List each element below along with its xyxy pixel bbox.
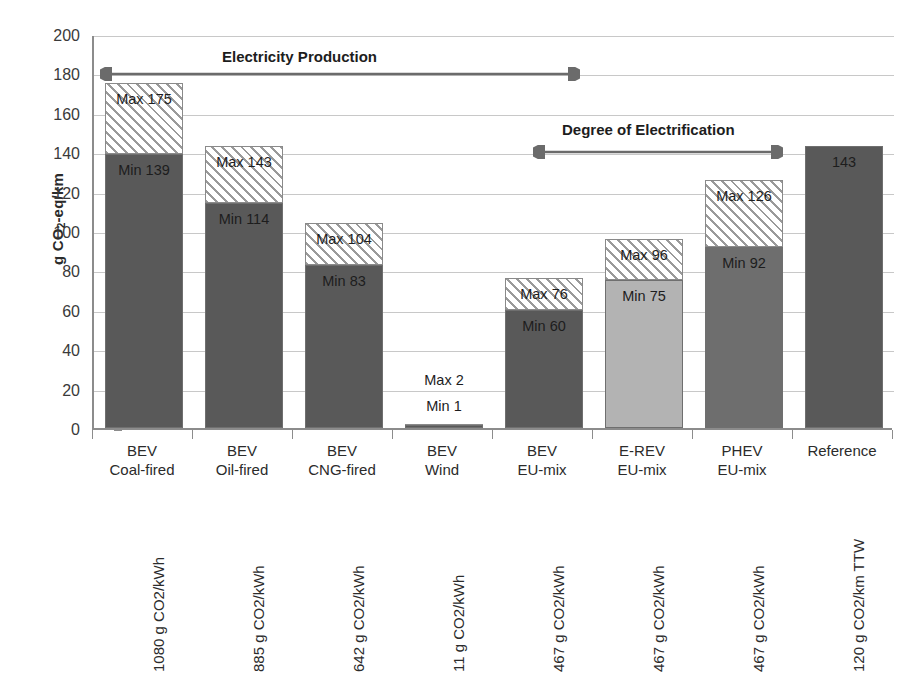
y-tick-label: 180 xyxy=(34,66,80,84)
category-label-bev-wind: BEVWind xyxy=(388,441,496,479)
category-label-e-rev-eu-mix: E-REVEU-mix xyxy=(588,441,696,479)
bar-min-label-bev-coal-fired: Min 139 xyxy=(105,162,183,178)
sub-label-bev-wind: 11 g CO2/kWh xyxy=(450,482,467,672)
bar-reference[interactable]: 143 xyxy=(805,34,883,428)
x-tick-mark xyxy=(692,430,693,439)
bar-min-label-bev-wind: Min 1 xyxy=(389,398,499,414)
sub-label-phev-eu-mix: 467 g CO2/kWh xyxy=(750,482,767,672)
category-label-line2: EU-mix xyxy=(688,460,796,479)
annotation-degree-of-electrification-arrow xyxy=(533,145,783,159)
x-tick-mark xyxy=(592,430,593,439)
bar-max-label-e-rev-eu-mix: Max 96 xyxy=(605,247,683,263)
category-label-line2: CNG-fired xyxy=(288,460,396,479)
category-label-line2: Wind xyxy=(388,460,496,479)
annotation-electricity-production-arrow xyxy=(100,67,580,81)
y-tick-label: 40 xyxy=(34,342,80,360)
bar-min-label-e-rev-eu-mix: Min 75 xyxy=(605,288,683,304)
bar-min-label-bev-cng-fired: Min 83 xyxy=(305,273,383,289)
bar-value-label-reference: 143 xyxy=(805,154,883,170)
bar-segment-min-bev-coal-fired[interactable] xyxy=(105,154,183,428)
category-label-line2: Coal-fired xyxy=(88,460,196,479)
x-tick-mark xyxy=(792,430,793,439)
sub-label-e-rev-eu-mix: 467 g CO2/kWh xyxy=(650,482,667,672)
bar-min-label-bev-oil-fired: Min 114 xyxy=(205,211,283,227)
bar-segment-min-reference[interactable] xyxy=(805,146,883,428)
x-tick-mark xyxy=(92,430,93,439)
x-tick-mark xyxy=(392,430,393,439)
bar-min-label-phev-eu-mix: Min 92 xyxy=(705,255,783,271)
y-tick-label: 200 xyxy=(34,27,80,45)
category-label-line1: BEV xyxy=(488,441,596,460)
sub-label-bev-eu-mix: 467 g CO2/kWh xyxy=(550,482,567,672)
category-label-line1: BEV xyxy=(188,441,296,460)
category-label-line1: BEV xyxy=(288,441,396,460)
bar-segment-min-bev-wind[interactable] xyxy=(405,425,483,428)
category-label-bev-cng-fired: BEVCNG-fired xyxy=(288,441,396,479)
y-tick-label: 60 xyxy=(34,303,80,321)
plot-area: Max 175Min 139Max 143Min 114Max 104Min 8… xyxy=(92,36,892,430)
bar-bev-wind[interactable]: Max 2Min 1 xyxy=(405,34,483,428)
category-label-line1: BEV xyxy=(88,441,196,460)
bar-max-label-bev-coal-fired: Max 175 xyxy=(105,91,183,107)
sub-label-bev-cng-fired: 642 g CO2/kWh xyxy=(350,482,367,672)
bar-e-rev-eu-mix[interactable]: Max 96Min 75 xyxy=(605,34,683,428)
x-tick-mark xyxy=(292,430,293,439)
sub-label-reference: 120 g CO2/km TTW xyxy=(850,482,867,672)
category-label-bev-eu-mix: BEVEU-mix xyxy=(488,441,596,479)
bar-min-label-bev-eu-mix: Min 60 xyxy=(505,318,583,334)
y-axis-ticks: 200180160140120100806040200 xyxy=(30,36,80,430)
bar-phev-eu-mix[interactable]: Max 126Min 92 xyxy=(705,34,783,428)
bar-bev-eu-mix[interactable]: Max 76Min 60 xyxy=(505,34,583,428)
y-tick-label: 160 xyxy=(34,106,80,124)
category-label-line1: PHEV xyxy=(688,441,796,460)
y-tick-label: 140 xyxy=(34,145,80,163)
sub-label-bev-oil-fired: 885 g CO2/kWh xyxy=(250,482,267,672)
y-tick-label: 120 xyxy=(34,185,80,203)
category-label-bev-coal-fired: BEVCoal-fired xyxy=(88,441,196,479)
annotation-degree-of-electrification-label: Degree of Electrification xyxy=(562,121,735,138)
category-label-line1: Reference xyxy=(788,441,896,460)
category-label-bev-oil-fired: BEVOil-fired xyxy=(188,441,296,479)
x-tick-mark xyxy=(192,430,193,439)
x-tick-mark xyxy=(892,430,893,439)
bar-max-label-bev-eu-mix: Max 76 xyxy=(505,286,583,302)
x-tick-mark xyxy=(492,430,493,439)
category-label-line1: BEV xyxy=(388,441,496,460)
bar-segment-min-phev-eu-mix[interactable] xyxy=(705,247,783,428)
y-tick-label: 80 xyxy=(34,263,80,281)
bar-segment-min-bev-cng-fired[interactable] xyxy=(305,265,383,429)
sub-label-bev-coal-fired: 1080 g CO2/kWh xyxy=(150,482,167,672)
bar-bev-oil-fired[interactable]: Max 143Min 114 xyxy=(205,34,283,428)
bar-bev-cng-fired[interactable]: Max 104Min 83 xyxy=(305,34,383,428)
y-tick-label: 20 xyxy=(34,382,80,400)
category-label-line1: E-REV xyxy=(588,441,696,460)
bar-bev-coal-fired[interactable]: Max 175Min 139 xyxy=(105,34,183,428)
bar-segment-min-bev-oil-fired[interactable] xyxy=(205,203,283,428)
annotation-electricity-production-label: Electricity Production xyxy=(222,48,377,65)
category-label-reference: Reference xyxy=(788,441,896,460)
y-tick-label: 0 xyxy=(34,421,80,439)
bar-max-label-bev-oil-fired: Max 143 xyxy=(205,154,283,170)
bar-max-label-bev-cng-fired: Max 104 xyxy=(305,231,383,247)
category-label-line2: Oil-fired xyxy=(188,460,296,479)
bar-max-label-phev-eu-mix: Max 126 xyxy=(705,188,783,204)
category-label-line2: EU-mix xyxy=(588,460,696,479)
category-label-phev-eu-mix: PHEVEU-mix xyxy=(688,441,796,479)
y-tick-label: 100 xyxy=(34,224,80,242)
chart-container: g CO2-eq/km 200180160140120100806040200 … xyxy=(0,0,908,683)
y-tick-mark xyxy=(114,430,122,431)
bar-max-label-bev-wind: Max 2 xyxy=(389,372,499,388)
category-label-line2: EU-mix xyxy=(488,460,596,479)
